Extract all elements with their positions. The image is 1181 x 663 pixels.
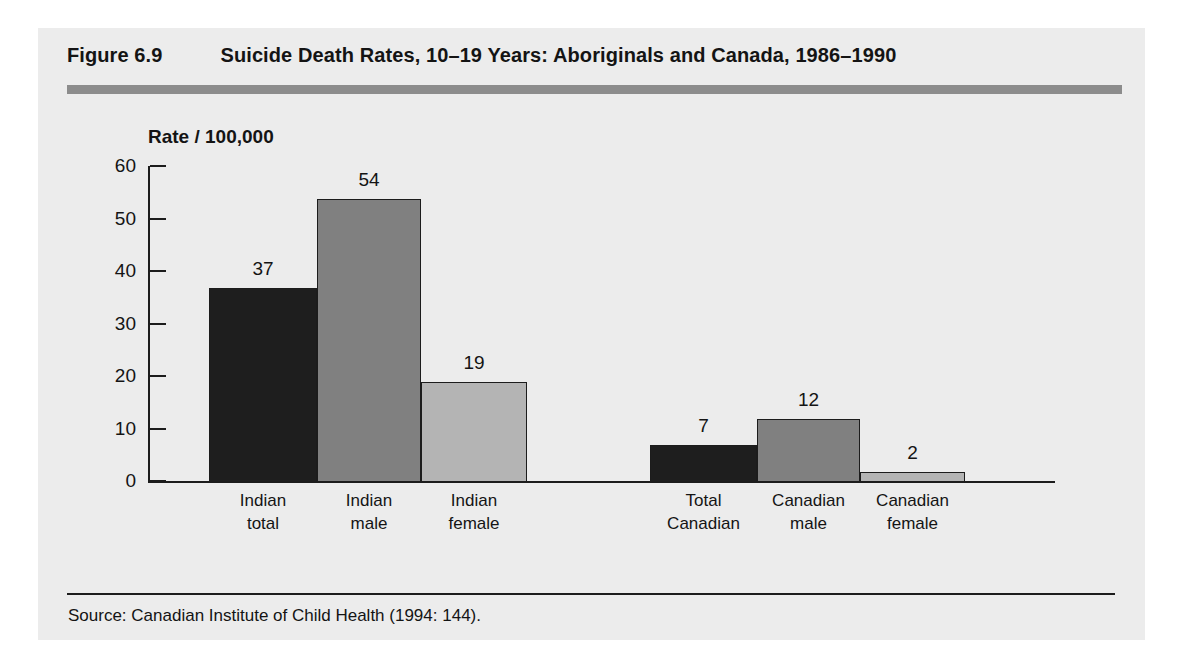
bar-value-label: 37 — [209, 259, 317, 278]
bar — [209, 288, 317, 482]
bar — [421, 382, 527, 482]
bar-value-label: 2 — [860, 443, 965, 462]
bar-value-label: 7 — [650, 416, 757, 435]
bar — [317, 199, 421, 483]
figure-panel: Figure 6.9 Suicide Death Rates, 10–19 Ye… — [38, 28, 1145, 640]
x-axis-category-label: Canadianfemale — [842, 490, 983, 536]
source-divider — [67, 593, 1115, 595]
chart-plot-area: Rate / 100,000 0102030405060 3754197122 … — [38, 28, 1145, 640]
x-axis-category-label: Indianfemale — [403, 490, 545, 536]
bar-value-label: 12 — [757, 390, 860, 409]
bar — [860, 472, 965, 483]
bars-layer: 3754197122 — [38, 28, 1145, 482]
x-axis-label-line-1: Indian — [403, 490, 545, 513]
bar — [650, 445, 757, 482]
x-axis-label-line-2: female — [842, 513, 983, 536]
x-axis-label-line-1: Canadian — [842, 490, 983, 513]
source-note: Source: Canadian Institute of Child Heal… — [68, 606, 481, 626]
bar-value-label: 54 — [317, 170, 421, 189]
bar — [757, 419, 860, 482]
x-axis-label-line-2: female — [403, 513, 545, 536]
bar-value-label: 19 — [421, 353, 527, 372]
